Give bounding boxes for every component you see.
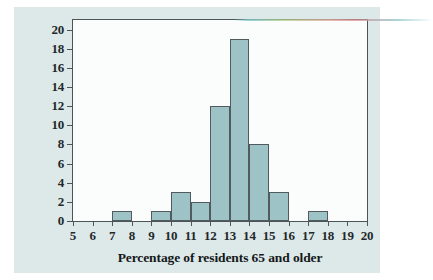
x-axis-tick bbox=[249, 221, 250, 226]
x-axis-tick bbox=[328, 221, 329, 226]
x-axis-tick-label: 10 bbox=[165, 228, 178, 244]
plot-area: 02468101214161820 5678910111213141516171… bbox=[72, 19, 368, 222]
x-axis-tick bbox=[269, 221, 270, 226]
y-axis-tick bbox=[67, 144, 72, 145]
x-axis-tick bbox=[171, 221, 172, 226]
x-axis-tick bbox=[347, 221, 348, 226]
x-axis-tick bbox=[210, 221, 211, 226]
y-axis-tick-label: 8 bbox=[58, 136, 64, 152]
x-axis-tick-label: 19 bbox=[341, 228, 354, 244]
y-axis-tick-label: 0 bbox=[58, 213, 64, 229]
y-axis-tick-label: 20 bbox=[51, 22, 64, 38]
y-axis-tick bbox=[67, 106, 72, 107]
x-axis-tick bbox=[367, 221, 368, 226]
x-axis-tick-label: 18 bbox=[321, 228, 334, 244]
y-axis-tick bbox=[67, 221, 72, 222]
x-axis-tick bbox=[289, 221, 290, 226]
y-axis-tick-label: 14 bbox=[51, 79, 64, 95]
y-axis-tick-label: 4 bbox=[58, 175, 64, 191]
histogram-bar bbox=[230, 39, 250, 221]
y-axis-tick bbox=[67, 87, 72, 88]
x-axis-title: Percentage of residents 65 and older bbox=[72, 250, 368, 266]
x-axis-tick bbox=[93, 221, 94, 226]
histogram-bar bbox=[112, 211, 132, 221]
y-axis-tick bbox=[67, 68, 72, 69]
y-axis-tick bbox=[67, 202, 72, 203]
x-axis-tick-label: 17 bbox=[302, 228, 315, 244]
histogram-bar bbox=[191, 202, 211, 221]
x-axis-tick-label: 8 bbox=[129, 228, 135, 244]
histogram-bars bbox=[73, 20, 367, 221]
y-axis-tick-label: 2 bbox=[58, 194, 64, 210]
figure-background: 02468101214161820 5678910111213141516171… bbox=[14, 7, 380, 273]
y-axis-tick bbox=[67, 164, 72, 165]
histogram-bar bbox=[308, 211, 328, 221]
x-axis-tick-label: 5 bbox=[70, 228, 76, 244]
y-axis-tick-label: 16 bbox=[51, 60, 64, 76]
y-axis-tick-label: 10 bbox=[51, 117, 64, 133]
histogram-bar bbox=[269, 192, 289, 221]
x-axis-tick bbox=[308, 221, 309, 226]
x-axis-tick-label: 7 bbox=[109, 228, 115, 244]
x-axis-tick bbox=[151, 221, 152, 226]
y-axis-tick bbox=[67, 125, 72, 126]
x-axis-tick bbox=[191, 221, 192, 226]
y-axis-tick-label: 6 bbox=[58, 156, 64, 172]
x-axis-tick-label: 6 bbox=[89, 228, 95, 244]
x-axis-tick bbox=[230, 221, 231, 226]
y-axis-tick-label: 12 bbox=[51, 98, 64, 114]
y-axis-tick bbox=[67, 183, 72, 184]
y-axis-tick bbox=[67, 49, 72, 50]
histogram-bar bbox=[210, 106, 230, 221]
x-axis-tick-label: 15 bbox=[263, 228, 276, 244]
x-axis-tick-label: 13 bbox=[223, 228, 236, 244]
x-axis-tick-label: 12 bbox=[204, 228, 217, 244]
x-axis-tick-label: 20 bbox=[361, 228, 374, 244]
x-axis-tick bbox=[112, 221, 113, 226]
histogram-bar bbox=[171, 192, 191, 221]
x-axis-tick bbox=[73, 221, 74, 226]
histogram-bar bbox=[151, 211, 171, 221]
x-axis-tick bbox=[132, 221, 133, 226]
histogram-bar bbox=[249, 144, 269, 221]
x-axis-tick-label: 14 bbox=[243, 228, 256, 244]
x-axis-tick-label: 11 bbox=[185, 228, 197, 244]
y-axis-tick bbox=[67, 30, 72, 31]
x-axis-tick-label: 9 bbox=[148, 228, 154, 244]
y-axis-tick-label: 18 bbox=[51, 41, 64, 57]
x-axis-tick-label: 16 bbox=[282, 228, 295, 244]
